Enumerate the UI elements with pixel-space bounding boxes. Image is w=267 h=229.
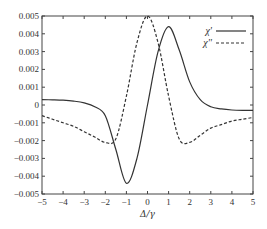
y-tick-label: −0.005 (14, 189, 40, 199)
y-tick-label: 0 (35, 100, 40, 110)
y-tick-label: 0.005 (19, 11, 40, 21)
x-tick-label: 3 (209, 197, 214, 207)
series-chi-double-prime-line (42, 16, 253, 144)
y-tick-label: 0.003 (19, 47, 40, 57)
x-tick-label: 1 (166, 197, 171, 207)
legend-label-chi-double-prime: χ'' (202, 37, 213, 48)
x-tick-label: −4 (58, 197, 68, 207)
x-tick-label: 4 (230, 197, 235, 207)
legend: χ' χ'' (202, 25, 246, 48)
x-tick-label: 2 (187, 197, 192, 207)
x-tick-label: 5 (251, 197, 256, 207)
x-tick-label: 0 (145, 197, 150, 207)
series-layer (42, 16, 253, 183)
x-tick-label: −3 (79, 197, 89, 207)
y-tick-label: 0.002 (19, 64, 39, 74)
x-tick-label: −2 (101, 197, 111, 207)
chart: 0.0050.0040.0030.0020.0010−0.001−0.002−0… (0, 0, 267, 229)
x-axis-title: Δ/γ (139, 209, 156, 219)
y-tick-label: 0.004 (19, 29, 40, 39)
y-tick-label: −0.004 (14, 171, 40, 181)
y-tick-label: −0.001 (14, 118, 39, 128)
x-tick-label: −1 (122, 197, 132, 207)
y-tick-label: −0.003 (14, 153, 40, 163)
x-tick-label: −5 (37, 197, 47, 207)
legend-label-chi-prime: χ' (204, 25, 212, 36)
y-tick-label: −0.002 (14, 136, 39, 146)
y-tick-label: 0.001 (19, 82, 39, 92)
series-chi-prime-line (42, 27, 253, 184)
